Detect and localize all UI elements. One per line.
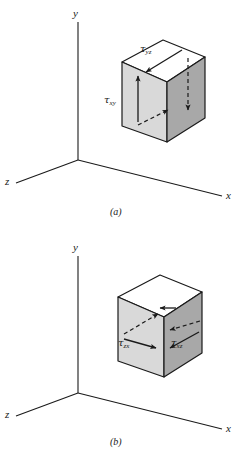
axis-label-z-a: z [5, 176, 9, 187]
figure-root: y x z τyz τxy (a) [0, 0, 242, 460]
panel-a-drawing [0, 0, 242, 230]
panel-a: y x z τyz τxy (a) [0, 0, 242, 230]
tau-subscript: yz [146, 48, 152, 56]
panel-caption-a: (a) [110, 207, 122, 217]
stress-label-tau-xy: τxy [104, 95, 116, 107]
tau-subscript: xz [177, 342, 183, 350]
panel-b: y x z τzx τxz (b) [0, 230, 242, 460]
z-axis-line [16, 160, 78, 183]
axis-label-y-a: y [73, 8, 78, 19]
tau-subscript: zx [124, 342, 130, 350]
tau-subscript: xy [110, 99, 116, 107]
axis-label-x-a: x [226, 190, 231, 201]
stress-label-tau-yz: τyz [140, 44, 152, 56]
z-axis-line [16, 393, 78, 416]
panel-caption-b: (b) [110, 437, 122, 447]
x-axis-line [78, 393, 222, 429]
axis-label-x-b: x [226, 423, 231, 434]
stress-label-tau-zx: τzx [118, 338, 130, 350]
x-axis-line [78, 160, 222, 196]
axis-label-z-b: z [5, 409, 9, 420]
axis-label-y-b: y [73, 242, 78, 253]
stress-label-tau-xz: τxz [171, 338, 183, 350]
